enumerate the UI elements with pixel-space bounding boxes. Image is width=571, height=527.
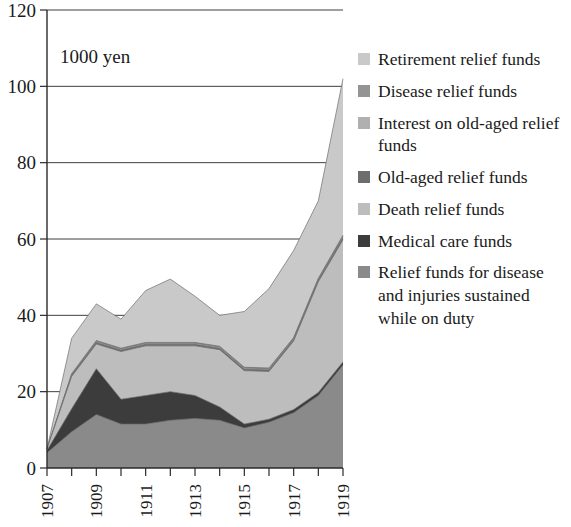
legend-item-disease[interactable]: Disease relief funds xyxy=(358,80,568,103)
legend-swatch-icon xyxy=(358,53,370,65)
legend-item-label: Medical care funds xyxy=(378,230,512,253)
x-tick-label: 1909 xyxy=(87,484,106,518)
legend-swatch-icon xyxy=(358,117,370,129)
y-tick-label: 60 xyxy=(17,229,36,250)
y-tick-label: 0 xyxy=(27,458,37,479)
legend-item-label: Old-aged relief funds xyxy=(378,166,528,189)
x-tick-label: 1919 xyxy=(334,484,353,518)
chart-legend: Retirement relief fundsDisease relief fu… xyxy=(358,48,568,339)
legend-item-death[interactable]: Death relief funds xyxy=(358,198,568,221)
legend-item-label: Interest on old-aged relief funds xyxy=(378,112,568,158)
legend-item-label: Death relief funds xyxy=(378,198,504,221)
legend-item-label: Disease relief funds xyxy=(378,80,517,103)
x-tick-label: 1907 xyxy=(38,484,57,519)
legend-item-duty_injury[interactable]: Relief funds for disease and injuries su… xyxy=(358,261,568,329)
y-tick-label: 20 xyxy=(17,381,36,402)
legend-item-label: Retirement relief funds xyxy=(378,48,540,71)
y-tick-label: 120 xyxy=(8,0,37,21)
legend-item-medical_care[interactable]: Medical care funds xyxy=(358,230,568,253)
legend-swatch-icon xyxy=(358,203,370,215)
legend-swatch-icon xyxy=(358,235,370,247)
legend-swatch-icon xyxy=(358,171,370,183)
legend-item-old_aged[interactable]: Old-aged relief funds xyxy=(358,166,568,189)
x-tick-label: 1913 xyxy=(186,484,205,518)
unit-annotation-label: 1000 yen xyxy=(60,46,131,67)
legend-item-label: Relief funds for disease and injuries su… xyxy=(378,261,568,329)
x-tick-label: 1915 xyxy=(235,484,254,518)
legend-swatch-icon xyxy=(358,266,370,278)
legend-swatch-icon xyxy=(358,85,370,97)
y-tick-label: 100 xyxy=(8,76,37,97)
x-tick-label: 1917 xyxy=(285,484,304,519)
stacked-area-chart-figure: 020406080100120 190719091911191319151917… xyxy=(0,0,571,527)
legend-item-interest_old_aged[interactable]: Interest on old-aged relief funds xyxy=(358,112,568,158)
y-tick-label: 80 xyxy=(17,152,36,173)
y-tick-label: 40 xyxy=(17,305,36,326)
legend-item-retirement[interactable]: Retirement relief funds xyxy=(358,48,568,71)
x-tick-label: 1911 xyxy=(137,484,156,517)
